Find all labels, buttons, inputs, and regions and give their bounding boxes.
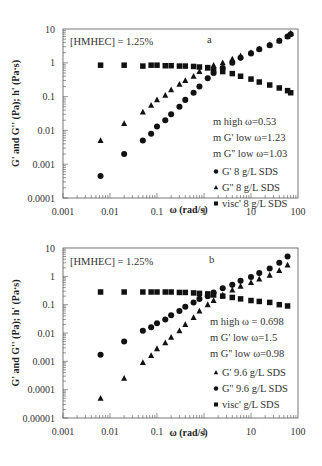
- legend-square-icon: [214, 403, 218, 407]
- legend-label: G' 9.6 g/L SDS: [222, 367, 286, 378]
- legend-circle-icon: [214, 169, 218, 173]
- legend-label: visc' g/L SDS: [222, 399, 280, 410]
- slope-annotation: m high ω=0.53: [213, 116, 276, 127]
- data-point: [256, 276, 262, 282]
- y-tick-label: 0.001: [33, 159, 56, 170]
- data-point: [230, 71, 236, 77]
- data-point: [248, 76, 254, 82]
- data-point: [148, 352, 154, 358]
- data-point: [211, 67, 217, 73]
- data-point: [154, 124, 160, 130]
- y-tick-label: 0.001: [33, 356, 56, 367]
- x-tick-label: 0.1: [151, 426, 164, 437]
- data-point: [168, 111, 174, 117]
- data-point: [191, 73, 197, 79]
- data-point: [183, 63, 189, 69]
- data-point: [98, 137, 104, 143]
- data-point: [140, 289, 146, 295]
- data-point: [205, 65, 211, 71]
- data-point: [220, 285, 226, 291]
- data-point: [191, 64, 197, 70]
- slope-annotation: m G'' low ω=1.03: [213, 148, 287, 159]
- legend-square-icon: [214, 202, 218, 206]
- series-square: [98, 289, 291, 308]
- data-point: [267, 300, 273, 306]
- data-point: [121, 375, 127, 381]
- data-point: [267, 265, 273, 271]
- data-point: [168, 312, 174, 318]
- data-point: [288, 90, 294, 96]
- data-point: [98, 352, 104, 358]
- data-point: [183, 290, 189, 296]
- data-point: [248, 279, 254, 285]
- data-point: [148, 324, 154, 330]
- slope-annotation: m G'' low ω=0.98: [210, 348, 284, 359]
- y-tick-label: 0.1: [43, 91, 56, 102]
- data-point: [98, 62, 104, 68]
- data-point: [162, 340, 168, 346]
- data-point: [163, 289, 169, 295]
- data-point: [276, 267, 282, 273]
- data-point: [121, 62, 127, 68]
- data-point: [229, 282, 235, 288]
- data-point: [230, 295, 236, 301]
- series-square: [98, 62, 294, 95]
- data-point: [148, 62, 154, 68]
- data-point: [168, 334, 174, 340]
- data-point: [197, 291, 203, 297]
- y-tick-label: 0.01: [38, 328, 56, 339]
- data-point: [196, 296, 202, 302]
- concentration-annotation: [HMHEC] = 1.25%: [70, 256, 153, 267]
- x-tick-label: 0.1: [151, 206, 164, 217]
- data-point: [121, 151, 127, 157]
- concentration-annotation: [HMHEC] = 1.25%: [70, 36, 153, 47]
- data-point: [220, 60, 226, 66]
- legend-label: G' 8 g/L SDS: [222, 166, 278, 177]
- data-point: [148, 131, 154, 137]
- data-point: [182, 304, 188, 310]
- data-point: [140, 138, 146, 144]
- data-point: [168, 86, 174, 92]
- x-tick-label: 0.01: [101, 426, 119, 437]
- data-point: [248, 298, 254, 304]
- x-tick-label: 0.001: [52, 206, 75, 217]
- data-point: [277, 302, 283, 308]
- x-axis-title: ω (rad/s): [169, 427, 207, 439]
- data-point: [98, 395, 104, 401]
- legend-circle-icon: [214, 386, 218, 390]
- data-point: [248, 274, 254, 280]
- data-point: [196, 83, 202, 89]
- data-point: [148, 102, 154, 108]
- data-point: [220, 293, 226, 299]
- y-tick-label: 0.01: [38, 125, 56, 136]
- data-point: [154, 97, 160, 103]
- data-point: [191, 314, 197, 320]
- panel-label: a: [207, 34, 212, 45]
- y-tick-label: 0.00001: [23, 413, 56, 424]
- data-point: [220, 69, 226, 75]
- legend-triangle-icon: [214, 185, 218, 189]
- data-point: [197, 64, 203, 70]
- data-point: [140, 328, 146, 334]
- data-point: [277, 85, 283, 91]
- figure: 0.0010.010.11101000.00010.0010.010.1110ω…: [0, 0, 322, 466]
- data-point: [148, 289, 154, 295]
- data-point: [267, 82, 273, 88]
- legend-triangle-icon: [214, 370, 218, 374]
- x-tick-label: 0.01: [101, 206, 119, 217]
- data-point: [238, 53, 244, 59]
- data-point: [211, 62, 217, 68]
- x-tick-label: 100: [291, 426, 306, 437]
- x-tick-label: 10: [246, 426, 256, 437]
- data-point: [238, 278, 244, 284]
- data-point: [238, 296, 244, 302]
- data-point: [177, 290, 183, 296]
- data-point: [276, 260, 282, 266]
- x-tick-label: 100: [291, 206, 306, 217]
- data-point: [256, 270, 262, 276]
- data-point: [285, 254, 291, 260]
- legend-label: visc' 8 g/L SDS: [222, 198, 288, 209]
- panel-label: b: [209, 254, 214, 265]
- data-point: [196, 308, 202, 314]
- y-axis-title: G' and G'' (Pa); h' (Pa·s): [10, 280, 22, 387]
